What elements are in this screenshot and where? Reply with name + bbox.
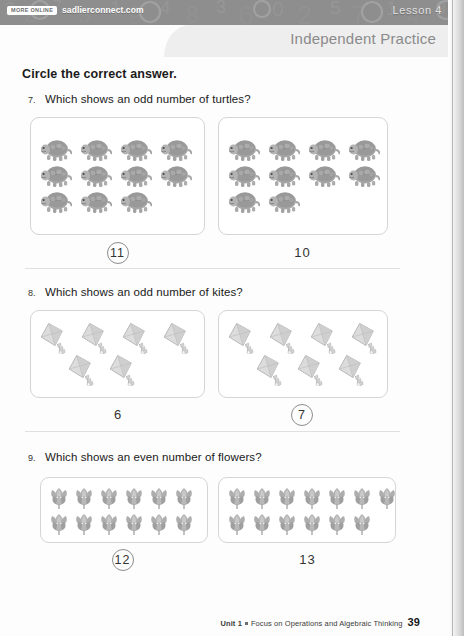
question-9-option-b-box[interactable] (218, 477, 396, 543)
question-7-answer-a[interactable]: 11 (95, 242, 140, 264)
flower-icon (276, 484, 298, 510)
page-edge-shadow (448, 0, 464, 636)
question-7-answer-b[interactable]: 10 (280, 245, 325, 260)
flower-icon (226, 484, 248, 510)
icon-row (38, 190, 197, 214)
icon-row (38, 164, 197, 188)
turtle-icon (266, 138, 300, 162)
kite-icon-item (161, 322, 194, 354)
question-7-option-b-box[interactable] (218, 117, 388, 235)
turtle-icon (38, 190, 72, 214)
turtle-grid-a (31, 118, 204, 234)
more-online-badge[interactable]: MORE ONLINE (7, 6, 57, 15)
kite-grid-b (219, 311, 387, 397)
turtle-icon-item (266, 138, 300, 162)
flower-icon-item (98, 510, 120, 536)
turtle-icon-item (78, 190, 112, 214)
flower-icon (301, 510, 323, 536)
flower-icon (226, 510, 248, 536)
flower-icon-item (326, 510, 348, 536)
turtle-icon (38, 138, 72, 162)
kite-icon (295, 354, 328, 386)
flower-icon-item (226, 484, 248, 510)
turtle-icon (78, 164, 112, 188)
question-8-answer-a[interactable]: 6 (98, 407, 138, 422)
footer-bullet-icon (245, 622, 248, 625)
turtle-icon-item (38, 138, 72, 162)
flower-icon-item (123, 510, 145, 536)
icon-row (48, 510, 200, 536)
flower-icon-item (376, 484, 398, 510)
kite-icon-item (120, 322, 153, 354)
flower-icon (148, 484, 170, 510)
svg-text:7: 7 (352, 1, 365, 25)
turtle-icon-item (306, 164, 340, 188)
turtle-icon (78, 138, 112, 162)
turtle-icon (78, 190, 112, 214)
svg-text:5: 5 (330, 0, 341, 18)
question-9-answer-a[interactable]: 12 (100, 549, 145, 571)
flower-icon-item (326, 484, 348, 510)
question-8-answer-b[interactable]: 7 (282, 404, 322, 426)
question-9-option-a-box[interactable] (40, 477, 208, 543)
turtle-icon-item (266, 164, 300, 188)
turtle-icon (226, 190, 260, 214)
icon-row (226, 138, 380, 162)
flower-icon (251, 484, 273, 510)
turtle-icon (38, 164, 72, 188)
kite-icon (308, 322, 341, 354)
flower-icon (98, 510, 120, 536)
question-9-answer-b-label: 13 (299, 552, 315, 567)
kite-icon-item (66, 354, 99, 386)
kite-icon-item (349, 322, 382, 354)
question-8-prompt: Which shows an odd number of kites? (45, 286, 243, 298)
flower-icon-item (251, 510, 273, 536)
svg-text:6: 6 (238, 0, 254, 25)
question-9-number: 9. (28, 453, 36, 463)
question-7-answer-b-label: 10 (294, 245, 310, 260)
icon-row (38, 354, 197, 386)
icon-row (226, 164, 380, 188)
footer-description: Focus on Operations and Algebraic Thinki… (251, 619, 403, 628)
question-7-number: 7. (28, 95, 36, 105)
turtle-icon-item (158, 164, 192, 188)
flower-grid-b (219, 478, 395, 542)
divider-2 (25, 431, 400, 432)
flower-icon (48, 510, 70, 536)
svg-text:3: 3 (216, 0, 226, 17)
footer-unit: Unit 1 (220, 619, 241, 628)
icon-row (226, 510, 388, 536)
kite-icon-item (38, 322, 71, 354)
sadlier-connect-link[interactable]: sadlierconnect.com (62, 5, 144, 15)
turtle-icon (158, 164, 192, 188)
kite-icon (66, 354, 99, 386)
kite-icon-item (226, 322, 259, 354)
flower-icon (73, 484, 95, 510)
icon-row (226, 484, 388, 510)
question-9-answer-a-label: 12 (112, 549, 134, 571)
flower-icon (351, 510, 373, 536)
turtle-icon-item (346, 138, 380, 162)
question-7-option-a-box[interactable] (30, 117, 205, 235)
flower-icon (276, 510, 298, 536)
question-7-prompt: Which shows an odd number of turtles? (45, 93, 251, 105)
independent-practice-band: Independent Practice (0, 25, 464, 57)
icon-row (48, 484, 200, 510)
turtle-icon (118, 190, 152, 214)
question-8-option-b-box[interactable] (218, 310, 388, 398)
question-9-answer-b[interactable]: 13 (285, 552, 330, 567)
turtle-icon-item (266, 190, 300, 214)
turtle-icon-item (38, 190, 72, 214)
flower-grid-a (41, 478, 207, 542)
flower-icon (326, 510, 348, 536)
flower-icon-item (226, 510, 248, 536)
icon-row (226, 190, 380, 214)
question-8-option-a-box[interactable] (30, 310, 205, 398)
worksheet-page: 3 2 7 5 1 9 4 8 3 6 0 2 5 7 1 4 9 (0, 0, 464, 636)
flower-icon-item (148, 484, 170, 510)
kite-icon-item (107, 354, 140, 386)
flower-icon-item (351, 484, 373, 510)
kite-icon (161, 322, 194, 354)
turtle-icon-item (346, 164, 380, 188)
lesson-label: Lesson 4 (393, 4, 442, 16)
